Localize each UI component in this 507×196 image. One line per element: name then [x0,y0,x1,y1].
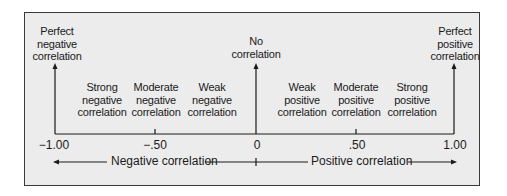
label-line: correlation [77,106,126,119]
arrowhead-up-icon [53,63,58,69]
tick-label-pos-half: .50 [349,139,366,152]
label-line: No [231,35,280,48]
negative-correlation-label: Negative correlation [111,155,218,168]
label-line: correlation [187,106,236,119]
positive-correlation-label: Positive correlation [311,155,412,168]
strong-positive-label: Strong positive correlation [387,81,436,119]
label-line: correlation [430,50,479,63]
label-line: Strong [387,81,436,94]
perfect-positive-label: Perfect positive correlation [430,25,479,63]
weak-positive-label: Weak positive correlation [277,81,326,119]
label-line: Perfect [32,25,81,38]
label-line: Weak [277,81,326,94]
label-line: negative [187,94,236,107]
strong-negative-label: Strong negative correlation [77,81,126,119]
label-line: Strong [77,81,126,94]
arrowhead-left-icon [53,160,59,165]
label-line: correlation [231,48,280,61]
arrowhead-right-icon [451,160,457,165]
label-line: Perfect [430,25,479,38]
label-line: Moderate [331,81,380,94]
arrowhead-up-icon [254,63,259,69]
arrowhead-up-icon [452,63,457,69]
tick-label-neg-half: −.50 [143,139,167,152]
label-line: correlation [387,106,436,119]
moderate-negative-label: Moderate negative correlation [131,81,180,119]
label-line: positive [387,94,436,107]
perfect-negative-label: Perfect negative correlation [32,25,81,63]
label-line: negative [77,94,126,107]
tick-label-zero: 0 [254,139,261,152]
no-correlation-label: No correlation [231,35,280,60]
label-line: Weak [187,81,236,94]
label-line: Moderate [131,81,180,94]
weak-negative-label: Weak negative correlation [187,81,236,119]
label-line: positive [430,38,479,51]
label-line: negative [32,38,81,51]
label-line: correlation [131,106,180,119]
label-line: positive [331,94,380,107]
tick-label-pos-one: 1.00 [443,139,466,152]
label-line: correlation [32,50,81,63]
tick-label-neg-one: −1.00 [39,139,69,152]
label-line: negative [131,94,180,107]
label-line: positive [277,94,326,107]
label-line: correlation [331,106,380,119]
moderate-positive-label: Moderate positive correlation [331,81,380,119]
label-line: correlation [277,106,326,119]
